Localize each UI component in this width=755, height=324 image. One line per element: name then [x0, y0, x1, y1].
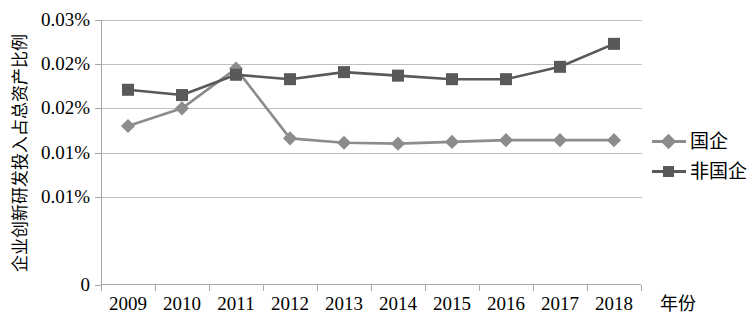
x-axis-tick-label: 2013 [325, 293, 363, 315]
legend-swatch [652, 163, 686, 179]
diamond-marker [607, 133, 621, 147]
square-marker [608, 38, 620, 50]
x-axis-tick-mark [155, 285, 156, 291]
square-marker [230, 69, 242, 81]
x-axis-tick-label: 2018 [595, 293, 633, 315]
square-marker [176, 89, 188, 101]
diamond-marker [553, 133, 567, 147]
legend-item[interactable]: 非国企 [652, 156, 755, 186]
series-line [128, 69, 614, 144]
legend-label: 非国企 [690, 162, 747, 181]
x-axis-tick-mark [533, 285, 534, 291]
y-axis-tick-mark [95, 153, 101, 154]
y-axis-tick-mark [95, 64, 101, 65]
series-non-state-owned [122, 38, 620, 101]
x-axis-tick-labels: 2009201020112012201320142015201620172018 [0, 289, 755, 324]
square-marker [338, 66, 350, 78]
x-axis-title: 年份 [660, 289, 696, 315]
square-marker [284, 73, 296, 85]
x-axis-tick-mark [263, 285, 264, 291]
x-axis-tick-label: 2011 [217, 293, 254, 315]
x-axis-tick-mark [317, 285, 318, 291]
y-axis-tick-mark [95, 20, 101, 21]
diamond-marker [499, 133, 513, 147]
x-axis-tick-label: 2009 [109, 293, 147, 315]
y-axis-tick-mark [95, 197, 101, 198]
x-axis-tick-mark [425, 285, 426, 291]
square-marker [554, 61, 566, 73]
x-axis-tick-mark [641, 285, 642, 291]
diamond-marker [337, 136, 351, 150]
x-axis-tick-label: 2016 [487, 293, 525, 315]
x-axis-tick-label: 2017 [541, 293, 579, 315]
square-marker [122, 84, 134, 96]
diamond-marker [121, 119, 135, 133]
legend-swatch [652, 133, 686, 149]
chart-root: 企业创新研发投入占总资产比例 0.03%0.02%0.02%0.01%0.01%… [0, 0, 755, 324]
x-axis-tick-mark [479, 285, 480, 291]
x-axis-tick-label: 2015 [433, 293, 471, 315]
series-line [128, 44, 614, 95]
x-axis-tick-mark [101, 285, 102, 291]
square-marker [663, 166, 674, 177]
diamond-marker [391, 137, 405, 151]
x-axis-tick-label: 2010 [163, 293, 201, 315]
x-axis-tick-mark [371, 285, 372, 291]
chart-legend: 国企非国企 [652, 126, 755, 186]
series-layer [0, 0, 755, 324]
x-axis-tick-label: 2014 [379, 293, 417, 315]
legend-label: 国企 [690, 132, 728, 151]
square-marker [500, 73, 512, 85]
x-axis-tick-label: 2012 [271, 293, 309, 315]
y-axis-tick-mark [95, 108, 101, 109]
x-axis-tick-mark [209, 285, 210, 291]
square-marker [446, 73, 458, 85]
legend-item[interactable]: 国企 [652, 126, 755, 156]
diamond-marker [661, 134, 677, 150]
x-axis-tick-mark [587, 285, 588, 291]
diamond-marker [445, 135, 459, 149]
square-marker [392, 70, 404, 82]
